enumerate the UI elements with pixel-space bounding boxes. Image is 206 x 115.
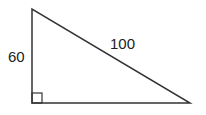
vertical-leg-label: 60: [8, 48, 25, 65]
hypotenuse-label: 100: [110, 35, 135, 52]
triangle-diagram: 60 100: [0, 0, 206, 115]
right-angle-marker: [32, 93, 42, 103]
right-triangle: [32, 9, 190, 103]
